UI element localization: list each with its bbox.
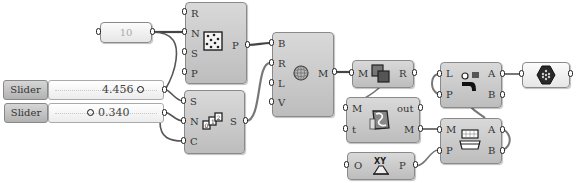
number-panel[interactable]: 10 [100, 22, 152, 43]
slider-1-output-grip[interactable] [162, 86, 167, 93]
mesh-grip-l[interactable] [269, 79, 274, 86]
split-mesh-node[interactable]: L P A B [440, 62, 502, 108]
populate-grip-n[interactable] [182, 28, 187, 35]
svg-text:2: 2 [217, 114, 221, 121]
grasshopper-canvas[interactable]: 10 Slider 4.456 Slider 0.340 R N S P P S… [0, 0, 578, 183]
port-r-out: R [399, 69, 407, 79]
slider-2-label[interactable]: Slider [4, 103, 48, 123]
port-c: C [190, 137, 198, 147]
populate-grip-out[interactable] [245, 41, 250, 48]
mesh-grip-r[interactable] [269, 59, 274, 66]
mesh-output-param[interactable] [522, 62, 570, 88]
port-p-out: P [232, 41, 239, 51]
slider-1-knob[interactable] [137, 86, 144, 93]
union-grip-in[interactable] [349, 69, 354, 76]
port-s: S [190, 97, 197, 107]
smooth-grip-t[interactable] [343, 125, 348, 132]
hexagon-mesh-icon [536, 65, 556, 85]
svg-text:0: 0 [205, 122, 209, 129]
smooth-grip-m-out[interactable] [418, 125, 423, 132]
mesh-sphere-icon [293, 65, 309, 81]
splitbox-grip-a[interactable] [500, 126, 505, 133]
port-o: O [354, 161, 362, 171]
split-mesh-icon [459, 71, 481, 95]
slider-2-output-grip[interactable] [162, 109, 167, 116]
port-s-out: S [230, 117, 237, 127]
smooth-grip-m[interactable] [343, 104, 348, 111]
port-p: P [446, 146, 453, 156]
split-grip-b[interactable] [500, 91, 505, 98]
port-r: R [191, 9, 199, 19]
port-n: N [190, 117, 199, 127]
mesh-grip-b[interactable] [269, 39, 274, 46]
port-m: M [358, 69, 368, 79]
mesh-sphere-node[interactable]: B R L V M [272, 32, 334, 117]
series-node[interactable]: S N C S 012 [184, 90, 245, 154]
panel-input-grip[interactable] [96, 28, 101, 35]
xy-grip-p[interactable] [413, 161, 418, 168]
port-m: M [352, 104, 362, 114]
split-box-node[interactable]: M P A B [440, 118, 502, 164]
port-p-out: P [399, 161, 406, 171]
port-n: N [191, 29, 200, 39]
port-b-out: B [488, 90, 495, 100]
union-grip-out[interactable] [412, 69, 417, 76]
populate-grip-s[interactable] [182, 48, 187, 55]
port-p: P [446, 90, 453, 100]
mesh-grip-v[interactable] [269, 98, 274, 105]
populate-geometry-node[interactable]: R N S P P [185, 2, 247, 84]
mesh-grip-out[interactable] [332, 68, 337, 75]
smooth-mesh-icon [369, 108, 391, 132]
port-m: M [446, 125, 456, 135]
split-grip-p[interactable] [437, 91, 442, 98]
slider-2-bar[interactable]: 0.340 [48, 103, 164, 123]
panel-value: 10 [101, 23, 151, 42]
populate-grip-p[interactable] [182, 68, 187, 75]
split-box-icon [459, 128, 481, 152]
series-icon: 012 [202, 111, 224, 131]
splitbox-grip-m[interactable] [437, 126, 442, 133]
port-r: R [278, 59, 286, 69]
svg-text:1: 1 [211, 118, 215, 125]
xy-grip-o[interactable] [344, 161, 349, 168]
xy-plane-icon: XY [370, 155, 392, 177]
output-grip-out[interactable] [568, 70, 573, 77]
output-grip-in[interactable] [519, 70, 524, 77]
port-l: L [446, 69, 453, 79]
slider-1-value: 4.456 [102, 81, 134, 99]
port-a-out: A [488, 125, 495, 135]
svg-text:XY: XY [374, 157, 386, 166]
splitbox-grip-p[interactable] [437, 147, 442, 154]
slider-2-value: 0.340 [98, 104, 130, 122]
series-grip-s[interactable] [181, 97, 186, 104]
port-t: t [352, 125, 356, 135]
series-grip-c[interactable] [181, 137, 186, 144]
mesh-union-node[interactable]: M R [352, 60, 414, 88]
port-m-out: M [318, 69, 328, 79]
series-grip-n[interactable] [181, 117, 186, 124]
port-m-out: M [404, 125, 414, 135]
smooth-grip-out[interactable] [418, 104, 423, 111]
smooth-mesh-node[interactable]: M t out M [346, 97, 420, 143]
port-b-out: B [488, 146, 495, 156]
populate-points-icon [203, 31, 223, 51]
split-grip-l[interactable] [437, 70, 442, 77]
xy-plane-node[interactable]: O P XY [347, 152, 415, 180]
port-v: V [278, 98, 285, 108]
splitbox-grip-b[interactable] [500, 147, 505, 154]
slider-1-bar[interactable]: 4.456 [48, 80, 164, 100]
panel-output-grip[interactable] [150, 28, 155, 35]
port-l: L [278, 79, 285, 89]
slider-1-label[interactable]: Slider [3, 80, 48, 100]
populate-grip-r[interactable] [182, 8, 187, 15]
split-grip-a[interactable] [500, 70, 505, 77]
port-b: B [278, 39, 285, 49]
port-s: S [191, 49, 198, 59]
series-grip-out[interactable] [243, 117, 248, 124]
mesh-union-icon [370, 63, 392, 85]
port-a-out: A [488, 69, 495, 79]
port-p: P [191, 69, 198, 79]
port-out: out [397, 104, 413, 114]
slider-2-knob[interactable] [87, 109, 94, 116]
